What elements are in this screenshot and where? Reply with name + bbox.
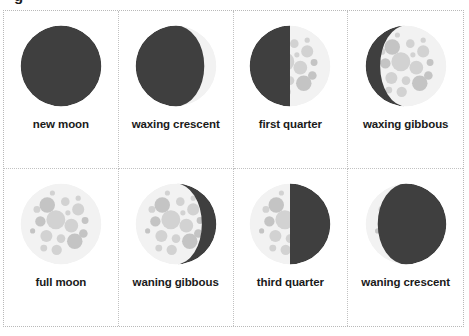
moon-phase-label: first quarter (259, 118, 322, 130)
moon-phase-card-waxing-crescent[interactable]: waxing crescent (119, 11, 234, 169)
moon-image-full (18, 181, 104, 267)
moon-phase-label: waning crescent (361, 276, 450, 288)
moon-phase-card-waning-crescent[interactable]: waning crescent (348, 169, 463, 327)
moon-phase-card-waning-gibbous[interactable]: waning gibbous (119, 169, 234, 327)
moon-phase-label: full moon (35, 276, 86, 288)
moon-phase-label: new moon (33, 118, 89, 130)
clipped-page-title: g (14, 0, 23, 4)
moon-image-waxing-gibbous (363, 23, 449, 109)
moon-image-waning-crescent (363, 181, 449, 267)
moon-illustration-third-quarter (247, 181, 333, 267)
moon-phase-card-new[interactable]: new moon (4, 11, 119, 169)
moon-image-new (18, 23, 104, 109)
moon-phase-card-first-quarter[interactable]: first quarter (234, 11, 349, 169)
moon-image-waning-gibbous (133, 181, 219, 267)
moon-phase-label: waxing crescent (132, 118, 220, 130)
moon-image-third-quarter (247, 181, 333, 267)
moon-phase-card-waxing-gibbous[interactable]: waxing gibbous (348, 11, 463, 169)
moon-phase-label: third quarter (257, 276, 324, 288)
moon-phase-card-third-quarter[interactable]: third quarter (234, 169, 349, 327)
moon-phase-card-full[interactable]: full moon (4, 169, 119, 327)
moon-image-waxing-crescent (133, 23, 219, 109)
moon-image-first-quarter (247, 23, 333, 109)
moon-phase-grid: new moonwaxing crescentfirst quarterwaxi… (3, 10, 464, 327)
moon-phase-label: waning gibbous (133, 276, 219, 288)
moon-illustration-waning-crescent (363, 181, 449, 267)
moon-illustration-waning-gibbous (133, 181, 219, 267)
moon-illustration-new (18, 23, 104, 109)
moon-phase-label: waxing gibbous (363, 118, 449, 130)
moon-illustration-waxing-crescent (133, 23, 219, 109)
moon-illustration-full (18, 181, 104, 267)
moon-illustration-waxing-gibbous (363, 23, 449, 109)
moon-illustration-first-quarter (247, 23, 333, 109)
